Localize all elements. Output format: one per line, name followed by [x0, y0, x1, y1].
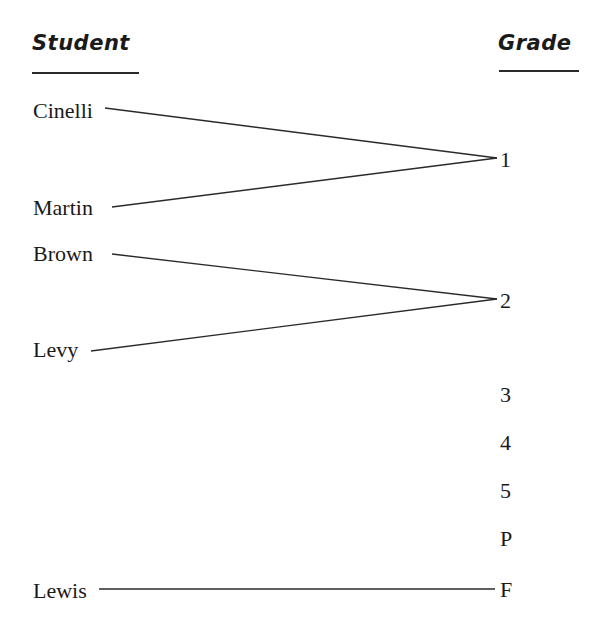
link-levy-to-2 — [91, 299, 497, 351]
mapping-lines — [0, 0, 609, 631]
grade-p: P — [500, 528, 512, 550]
grade-5: 5 — [500, 480, 511, 502]
student-column-header: Student — [32, 33, 130, 54]
student-martin: Martin — [33, 197, 93, 219]
grade-3: 3 — [500, 384, 511, 406]
link-cinelli-to-1 — [105, 108, 497, 158]
link-martin-to-1 — [112, 158, 497, 207]
grade-1: 1 — [500, 149, 511, 171]
student-cinelli: Cinelli — [33, 100, 93, 122]
student-brown: Brown — [33, 243, 93, 265]
student-levy: Levy — [33, 339, 78, 361]
student-lewis: Lewis — [33, 580, 87, 602]
student-grade-mapping-diagram: Student Grade Cinelli Martin Brown Levy … — [0, 0, 609, 631]
grade-2: 2 — [500, 290, 511, 312]
grade-header-underline — [499, 70, 579, 72]
link-brown-to-2 — [112, 254, 497, 299]
grade-4: 4 — [500, 432, 511, 454]
student-header-underline — [32, 72, 139, 74]
grade-f: F — [500, 579, 512, 601]
grade-column-header: Grade — [498, 33, 572, 54]
